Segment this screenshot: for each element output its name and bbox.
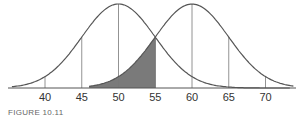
tick-label-40: 40 [39, 91, 51, 103]
tick-label-70: 70 [259, 91, 271, 103]
tick-label-60: 60 [186, 91, 198, 103]
curve-b [89, 4, 293, 86]
figure-caption: FIGURE 10.11 [8, 108, 63, 117]
tick-label-55: 55 [149, 91, 161, 103]
normal-distributions-chart: 40455055606570 [0, 0, 299, 125]
tick-label-65: 65 [223, 91, 235, 103]
reference-lines [45, 4, 266, 88]
shaded-overlap-region [89, 37, 155, 88]
tick-label-45: 45 [76, 91, 88, 103]
x-axis-tick-labels: 40455055606570 [39, 91, 272, 103]
tick-label-50: 50 [112, 91, 124, 103]
